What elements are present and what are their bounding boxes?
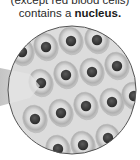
nucleus xyxy=(87,67,97,77)
nucleus xyxy=(41,42,51,52)
nucleus xyxy=(92,35,102,45)
nucleus xyxy=(103,133,113,143)
nucleus xyxy=(66,36,76,46)
magnified-cells-illustration xyxy=(0,0,140,160)
nucleus xyxy=(78,140,88,150)
nucleus xyxy=(81,101,91,111)
nucleus xyxy=(129,91,139,101)
nucleus xyxy=(56,108,66,118)
nucleus xyxy=(112,61,122,71)
nucleus xyxy=(107,97,117,107)
nucleus xyxy=(30,114,40,124)
nucleus xyxy=(61,70,71,80)
